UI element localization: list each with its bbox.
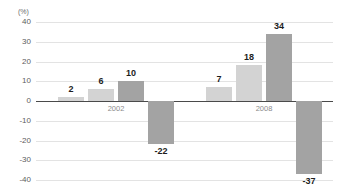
y-axis-tick-label: -30 xyxy=(1,156,31,164)
y-axis-tick-label: -40 xyxy=(1,176,31,184)
y-axis-unit-label: (%) xyxy=(18,8,29,15)
bar-value-label: 18 xyxy=(244,53,254,62)
bar-value-label: -22 xyxy=(154,147,167,156)
bar-value-label: 2 xyxy=(68,85,73,94)
plot-area: 403020100-10-20-30-40 2610-22200271834-3… xyxy=(36,22,333,180)
gridline xyxy=(36,141,333,142)
bar-chart: (%) 403020100-10-20-30-40 2610-222002718… xyxy=(0,0,337,195)
bar-value-label: 7 xyxy=(216,75,221,84)
y-axis-tick-label: 40 xyxy=(1,18,31,26)
y-axis-tick-label: -20 xyxy=(1,137,31,145)
bar xyxy=(88,89,114,101)
y-axis-tick-label: -10 xyxy=(1,117,31,125)
bar-value-label: 6 xyxy=(98,77,103,86)
y-axis-tick-label: 20 xyxy=(1,58,31,66)
bar xyxy=(296,101,322,174)
bar xyxy=(266,34,292,101)
bar xyxy=(206,87,232,101)
gridline xyxy=(36,160,333,161)
bar xyxy=(148,101,174,144)
zero-axis-line xyxy=(36,101,333,102)
y-axis-tick-label: 30 xyxy=(1,38,31,46)
x-axis-group-label: 2008 xyxy=(256,105,273,113)
bar xyxy=(236,65,262,101)
bar-value-label: -37 xyxy=(302,177,315,186)
y-axis-tick-label: 10 xyxy=(1,77,31,85)
bar-value-label: 10 xyxy=(126,69,136,78)
bar-value-label: 34 xyxy=(274,22,284,31)
bar xyxy=(58,97,84,101)
gridline xyxy=(36,180,333,181)
gridline xyxy=(36,121,333,122)
bar xyxy=(118,81,144,101)
x-axis-group-label: 2002 xyxy=(108,105,125,113)
y-axis-tick-label: 0 xyxy=(1,97,31,105)
gridline xyxy=(36,22,333,23)
